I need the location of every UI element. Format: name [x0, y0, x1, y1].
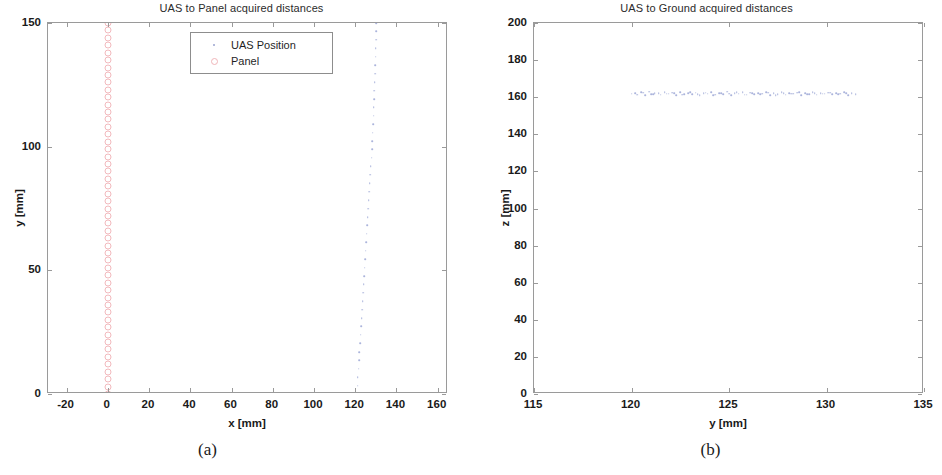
data-point-uas — [364, 267, 366, 269]
data-point-uas — [681, 94, 683, 96]
y-tick — [48, 147, 52, 148]
data-point-uas — [722, 93, 724, 95]
data-point-uas — [851, 92, 853, 94]
x-tick — [67, 388, 68, 392]
data-point-uas — [368, 199, 370, 201]
x-tick-label: 60 — [224, 398, 237, 410]
data-point-uas — [814, 92, 816, 94]
data-point-uas — [660, 94, 662, 96]
data-point-uas — [357, 385, 359, 387]
data-point-uas — [761, 93, 763, 95]
data-point-uas — [715, 94, 717, 96]
y-tick-label: 0 — [0, 387, 41, 399]
data-point-panel — [104, 116, 111, 123]
x-tick-label: 80 — [265, 398, 278, 410]
x-tick — [438, 388, 439, 392]
data-point-uas — [371, 157, 373, 159]
data-point-panel — [104, 361, 111, 368]
data-point-uas — [372, 123, 374, 125]
data-point-panel — [104, 71, 111, 78]
data-point-uas — [822, 93, 824, 95]
x-tick-label: 160 — [427, 398, 446, 410]
y-tick — [918, 320, 922, 321]
data-point-uas — [374, 90, 376, 92]
data-point-uas — [806, 94, 808, 96]
data-point-uas — [361, 317, 363, 319]
data-point-uas — [650, 94, 652, 96]
data-point-panel — [104, 220, 111, 227]
data-point-panel — [104, 294, 111, 301]
x-tick — [314, 388, 315, 392]
y-tick — [918, 283, 922, 284]
data-point-panel — [104, 339, 111, 346]
x-tick — [190, 23, 191, 27]
y-tick — [918, 246, 922, 247]
chart-panel-b: UAS to Ground acquired distances 1151201… — [471, 0, 942, 475]
y-tick-label: 100 — [0, 140, 41, 152]
data-point-panel — [104, 138, 111, 145]
subfigure-caption-b: (b) — [475, 440, 942, 460]
data-point-uas — [375, 31, 377, 33]
data-point-uas — [363, 275, 365, 277]
legend-entry-panel: Panel — [197, 53, 324, 69]
data-point-uas — [791, 93, 793, 95]
data-point-uas — [691, 93, 693, 95]
data-point-uas — [713, 94, 715, 96]
y-tick-label: 200 — [471, 16, 527, 28]
data-point-uas — [366, 233, 368, 235]
x-tick — [108, 388, 109, 392]
y-tick-label: 140 — [471, 127, 527, 139]
legend-label-panel: Panel — [231, 55, 259, 67]
y-tick-label: 60 — [471, 276, 527, 288]
figure-container: UAS to Panel acquired distances -2002040… — [0, 0, 942, 475]
y-tick-label: 150 — [0, 16, 41, 28]
y-tick-label: 20 — [471, 350, 527, 362]
data-point-panel — [104, 101, 111, 108]
data-point-panel — [104, 57, 111, 64]
x-tick-label: 100 — [303, 398, 322, 410]
x-tick — [827, 23, 828, 27]
data-point-panel — [104, 316, 111, 323]
x-tick — [314, 23, 315, 27]
data-point-uas — [752, 92, 754, 94]
x-tick — [273, 388, 274, 392]
y-tick — [918, 394, 922, 395]
data-point-uas — [736, 91, 738, 93]
data-point-uas — [644, 94, 646, 96]
legend-marker-dot-icon — [197, 44, 231, 46]
x-tick — [924, 23, 925, 27]
data-point-panel — [104, 279, 111, 286]
y-tick — [918, 23, 922, 24]
data-point-uas — [371, 149, 373, 151]
chart-title-a: UAS to Panel acquired distances — [6, 2, 477, 14]
y-tick — [918, 60, 922, 61]
x-tick — [729, 388, 730, 392]
data-point-uas — [658, 92, 660, 94]
data-point-uas — [720, 93, 722, 95]
x-tick-label: 140 — [386, 398, 405, 410]
data-point-panel — [104, 131, 111, 138]
data-point-uas — [839, 93, 841, 95]
data-point-panel — [104, 257, 111, 264]
data-point-uas — [808, 93, 810, 95]
data-point-uas — [699, 95, 701, 97]
data-point-panel — [104, 250, 111, 257]
data-point-uas — [775, 94, 777, 96]
data-point-uas — [375, 47, 377, 49]
x-tick — [232, 23, 233, 27]
x-tick — [355, 23, 356, 27]
x-tick-label: 40 — [183, 398, 196, 410]
x-axis-title: x [mm] — [228, 417, 266, 429]
legend-a: UAS Position Panel — [190, 32, 333, 74]
data-point-uas — [360, 326, 362, 328]
x-tick — [149, 388, 150, 392]
x-tick — [190, 388, 191, 392]
y-tick — [48, 23, 52, 24]
data-point-panel — [104, 205, 111, 212]
data-point-uas — [637, 94, 639, 96]
x-tick — [355, 388, 356, 392]
data-point-panel — [104, 309, 111, 316]
x-tick — [729, 23, 730, 27]
data-point-uas — [373, 115, 375, 117]
y-axis-title: z [mm] — [499, 189, 511, 226]
